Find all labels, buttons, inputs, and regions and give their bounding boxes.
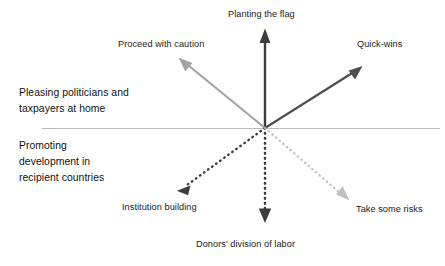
arrow-institution-building bbox=[177, 128, 265, 195]
region-label-lower-line-3: recipient countries bbox=[19, 170, 104, 186]
region-label-upper-line-2: taxpayers at home bbox=[19, 101, 129, 117]
arrow-label-institution-building: Institution building bbox=[122, 201, 197, 214]
region-label-upper-line-1: Pleasing politicians and bbox=[19, 85, 129, 101]
diagram-canvas: Planting the flag Proceed with caution Q… bbox=[0, 0, 445, 266]
region-label-lower: Promoting development in recipient count… bbox=[19, 138, 104, 185]
arrow-planting-the-flag bbox=[260, 29, 271, 129]
arrow-donors-division-of-labor bbox=[259, 128, 271, 223]
arrow-take-some-risks bbox=[265, 128, 350, 201]
arrow-proceed-with-caution bbox=[179, 58, 265, 129]
region-label-upper: Pleasing politicians and taxpayers at ho… bbox=[19, 85, 129, 117]
arrow-quick-wins bbox=[265, 66, 363, 128]
arrow-label-donors-division-of-labor: Donors' division of labor bbox=[196, 238, 295, 251]
arrow-label-quick-wins: Quick-wins bbox=[357, 38, 402, 51]
region-label-lower-line-1: Promoting bbox=[19, 138, 104, 154]
arrow-label-planting-the-flag: Planting the flag bbox=[228, 8, 295, 21]
arrow-label-take-some-risks: Take some risks bbox=[356, 203, 423, 216]
region-label-lower-line-2: development in bbox=[19, 154, 104, 170]
arrow-label-proceed-with-caution: Proceed with caution bbox=[118, 38, 204, 51]
